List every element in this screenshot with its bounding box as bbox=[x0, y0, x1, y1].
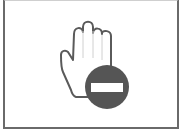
no-entry-bar bbox=[91, 83, 123, 92]
stop-hand-icon-container bbox=[0, 0, 180, 136]
hand-stop-icon bbox=[0, 0, 180, 136]
